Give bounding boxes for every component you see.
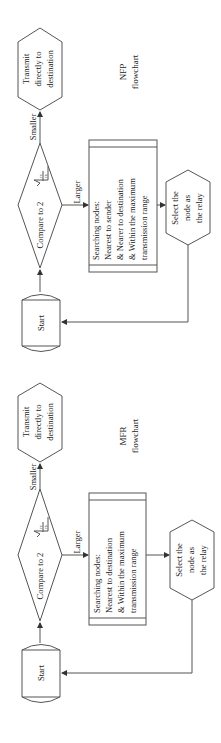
- mfr-transmit-text-1: Transmit: [21, 406, 31, 437]
- nfp-search-text-2: Nearest to sender: [103, 200, 113, 260]
- nfp-transmit-text-2: directly to: [33, 51, 43, 86]
- svg-text:rs: rs: [43, 525, 48, 529]
- nfp-select-text-2: node as: [182, 194, 192, 221]
- nfp-flowchart: NFP flowchart Transmit directly to desti…: [18, 28, 210, 352]
- mfr-select-text-3: the relay: [198, 544, 208, 575]
- nfp-search-text-1: Searching nodes:: [91, 201, 101, 260]
- mfr-decision-text: Compare to 2: [35, 553, 45, 600]
- nfp-decision-text: Compare to 2: [35, 202, 45, 249]
- mfr-search-text-3: & Within the maximum: [116, 531, 126, 613]
- mfr-search-text-2: Nearest to destination: [104, 537, 114, 613]
- mfr-smaller-label: Smaller: [28, 463, 38, 490]
- svg-text:rs: rs: [43, 174, 48, 178]
- nfp-start-text: Start: [36, 314, 46, 331]
- mfr-select-text-2: node as: [186, 546, 196, 573]
- nfp-transmit-text-1: Transmit: [21, 53, 31, 84]
- nfp-caption-line1: NFP: [118, 64, 128, 81]
- mfr-transmit-text-3: destination: [45, 402, 55, 440]
- nfp-search-text-3: & Nearer to destination: [115, 178, 125, 260]
- nfp-smaller-label: Smaller: [28, 113, 38, 140]
- nfp-caption-line2: flowchart: [130, 54, 140, 89]
- mfr-search-text-1: Searching nodes:: [92, 554, 102, 613]
- mfr-select-text-1: Select the: [174, 543, 184, 577]
- mfr-larger-label: Larger: [72, 530, 82, 553]
- mfr-flowchart: MFR flowchart Transmit directly to desti…: [18, 383, 214, 703]
- nfp-transmit-text-3: destination: [45, 49, 55, 87]
- mfr-caption-line1: MFR: [118, 426, 128, 445]
- nfp-select-text-1: Select the: [170, 191, 180, 225]
- mfr-search-text-4: transmission range: [128, 548, 138, 613]
- mfr-start-text: Start: [36, 664, 46, 681]
- flowchart-diagram: NFP flowchart Transmit directly to desti…: [0, 0, 221, 743]
- nfp-select-text-3: the relay: [194, 192, 204, 223]
- mfr-caption-line2: flowchart: [130, 418, 140, 453]
- nfp-search-text-5: transmission range: [139, 195, 149, 260]
- mfr-transmit-text-2: directly to: [33, 404, 43, 439]
- nfp-search-text-4: & Within the maximum: [127, 178, 137, 260]
- nfp-larger-label: Larger: [72, 180, 82, 203]
